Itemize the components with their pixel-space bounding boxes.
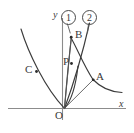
origin-label: O	[55, 110, 63, 121]
marker-point-b	[70, 36, 73, 39]
geometry-figure: y x O 1 2 B A C P	[0, 0, 134, 133]
marker-point-c	[35, 70, 38, 73]
y-axis-label: y	[53, 10, 57, 20]
marker-point-p	[70, 62, 73, 65]
leader-tag-one	[68, 24, 71, 33]
curve-tag-1: 1	[61, 10, 76, 25]
marker-point-a	[92, 78, 95, 81]
x-axis-label: x	[119, 99, 123, 109]
label-point-c: C	[25, 64, 32, 75]
curve-tag-2: 2	[82, 10, 97, 25]
leader-tag-two	[88, 24, 89, 33]
label-point-a: A	[96, 71, 104, 82]
segment-o-to-a	[65, 80, 94, 109]
label-point-p: P	[63, 56, 69, 67]
label-point-b: B	[75, 29, 82, 40]
